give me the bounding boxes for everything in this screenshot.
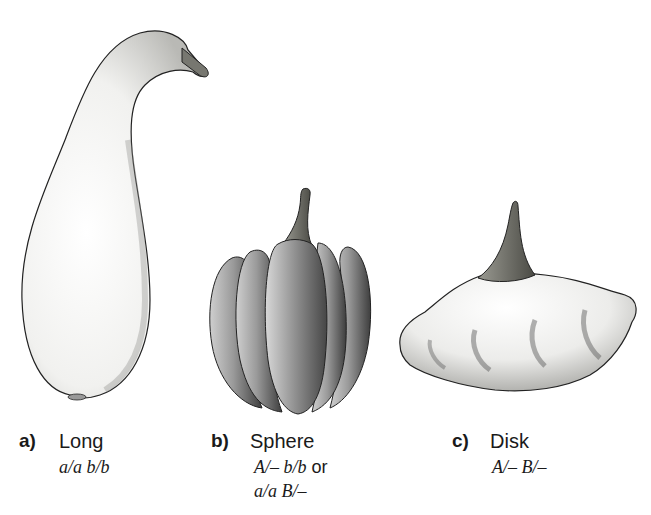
long-squash-drawing [22,31,208,400]
label-long: a) Long a/a b/b [19,430,199,490]
shape-name-disk: Disk [490,430,529,453]
genotype-disk: A/– B/– [492,456,547,478]
label-disk: c) Disk A/– B/– [452,430,632,490]
panel-letter-a: a) [19,430,36,452]
squash-shape-figure: a) Long a/a b/b b) Sphere A/– b/b or a/a… [0,0,651,515]
genotype-long: a/a b/b [59,456,110,478]
genotype-sphere-line2: a/a B/– [254,480,307,502]
genotype-or: or [307,457,328,477]
disk-squash-drawing [400,201,636,391]
panel-letter-c: c) [452,430,469,452]
genotype-sphere-line1: A/– b/b or [254,456,328,478]
sphere-squash-drawing [210,188,371,414]
shape-name-long: Long [59,430,104,453]
label-sphere: b) Sphere A/– b/b or a/a B/– [211,430,411,510]
genotype-sphere-option1: A/– b/b [254,457,307,477]
panel-letter-b: b) [211,430,229,452]
shape-name-sphere: Sphere [250,430,315,453]
